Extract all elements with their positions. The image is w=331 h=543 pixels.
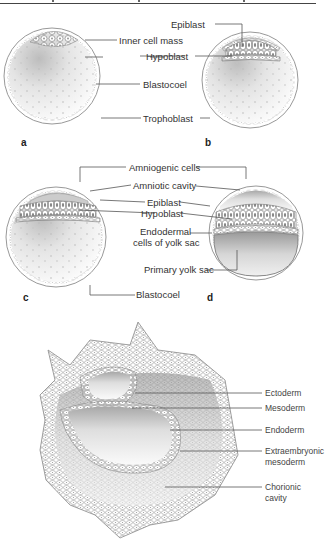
label-extraembryonic-line1: Extraembryonic	[265, 446, 324, 457]
label-chorionic-line2: cavity	[265, 493, 287, 504]
label-inner-cell-mass: Inner cell mass	[119, 35, 183, 46]
label-ectoderm: Ectoderm	[265, 388, 301, 399]
label-amniotic-cavity: Amniotic cavity	[133, 180, 196, 191]
label-blastocoel-ab: Blastocoel	[143, 79, 187, 90]
label-epiblast-b: Epiblast	[171, 19, 205, 30]
label-primary-yolk-sac: Primary yolk sac	[144, 264, 214, 275]
label-endoderm: Endoderm	[265, 425, 304, 436]
panel-letter-b: b	[205, 137, 211, 148]
label-hypoblast-cd: Hypoblast	[141, 208, 183, 219]
label-epiblast-cd: Epiblast	[147, 197, 181, 208]
panel-letter-a: a	[21, 137, 27, 148]
panel-a-blastocyst	[4, 28, 100, 124]
panel-d-embryo	[209, 186, 303, 280]
label-chorionic-line1: Chorionic	[265, 482, 301, 493]
panel-c-embryo	[6, 187, 106, 287]
label-blastocoel-c: Blastocoel	[136, 289, 180, 300]
label-endodermal-line2: cells of yolk sac	[133, 237, 200, 248]
label-hypoblast-b: Hypoblast	[146, 51, 188, 62]
label-trophoblast-ab: Trophoblast	[143, 113, 193, 124]
panel-letter-d: d	[207, 292, 213, 303]
label-extraembryonic-line2: mesoderm	[265, 457, 305, 468]
label-endodermal-line1: Endodermal	[140, 226, 191, 237]
label-amniogenic-cells: Amniogenic cells	[129, 162, 200, 173]
panel-b-blastocyst	[202, 32, 298, 128]
label-mesoderm: Mesoderm	[265, 403, 305, 414]
panel-letter-c: c	[23, 292, 29, 303]
